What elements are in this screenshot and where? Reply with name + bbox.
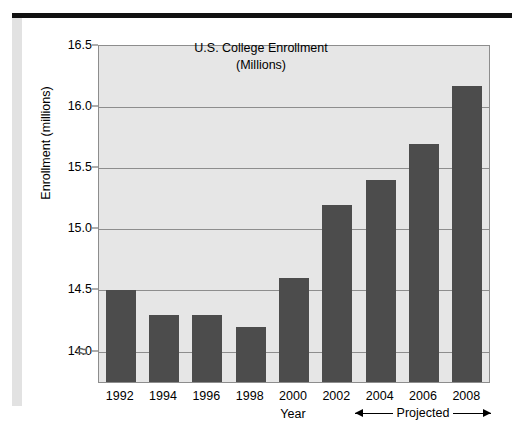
x-tick-label: 2004 — [366, 389, 394, 403]
page-canvas: Enrollment (millions) 16.516.015.515.014… — [0, 0, 522, 426]
arrow-right-icon — [453, 408, 491, 418]
x-tick-label: 1996 — [192, 389, 220, 403]
bar — [322, 205, 352, 382]
axis-break-icon: ≈ — [76, 340, 87, 361]
x-tick-label: 2002 — [322, 389, 350, 403]
bar — [106, 290, 136, 382]
bar — [452, 86, 482, 382]
chart-title-main: U.S. College Enrollment — [194, 41, 327, 55]
x-tick-label: 2008 — [452, 389, 480, 403]
x-tick-label: 2000 — [279, 389, 307, 403]
x-axis-title: Year — [280, 407, 305, 421]
x-tick-label: 1994 — [149, 389, 177, 403]
bar — [192, 315, 222, 382]
y-tick-label: 15.0 — [46, 222, 92, 235]
y-tick-label: 14.5 — [46, 283, 92, 296]
bar — [279, 278, 309, 382]
x-tick-label: 1998 — [236, 389, 264, 403]
bar — [236, 327, 266, 382]
y-tick-label: 15.5 — [46, 161, 92, 174]
x-tick-label: 1992 — [106, 389, 134, 403]
arrow-left-icon — [355, 408, 393, 418]
bar — [409, 144, 439, 382]
y-axis-ticks: 16.516.015.515.014.514.0 — [40, 45, 92, 383]
chart-title: U.S. College Enrollment (Millions) — [0, 40, 522, 74]
x-tick-label: 2006 — [409, 389, 437, 403]
plot-area — [98, 45, 490, 383]
y-tick-label: 16.0 — [46, 100, 92, 113]
bar — [366, 180, 396, 382]
projected-annotation: Projected — [355, 405, 492, 421]
bar — [149, 315, 179, 382]
bar-series — [99, 46, 489, 382]
chart-title-subtitle: (Millions) — [0, 57, 522, 74]
bar-chart-figure: Enrollment (millions) 16.516.015.515.014… — [0, 18, 522, 418]
projected-label: Projected — [397, 406, 450, 420]
